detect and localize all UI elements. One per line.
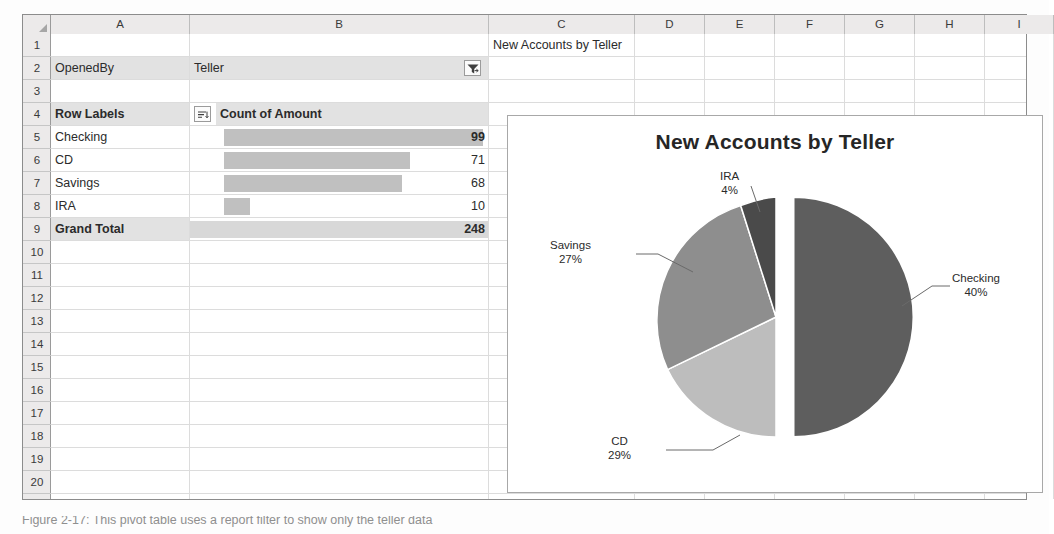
cell-A2-openedby[interactable]: OpenedBy [51,57,190,80]
leader-line-cd [666,435,740,450]
pivot-row-value[interactable]: 10 [190,195,489,218]
data-label-checking-pct: 40% [964,286,987,298]
sort-glyph [197,110,209,120]
row-header-17[interactable]: 17 [23,402,51,425]
data-label-ira-name: IRA [720,170,739,182]
row-header-7[interactable]: 7 [23,172,51,195]
figure-caption-text: Figure 2-17: This pivot table uses a rep… [22,516,922,527]
pivot-row-value[interactable]: 68 [190,172,489,195]
column-header-D[interactable]: D [635,15,705,34]
column-header-A[interactable]: A [51,15,190,34]
pivot-row-label[interactable]: Savings [51,172,190,195]
column-header-I[interactable]: I [985,15,1054,34]
pie-chart-object[interactable]: New Accounts by Teller IRA 4% [507,115,1043,493]
grand-total-label[interactable]: Grand Total [51,218,190,241]
row-header-18[interactable]: 18 [23,425,51,448]
row-header-14[interactable]: 14 [23,333,51,356]
sort-filter-icon[interactable] [194,106,211,122]
figure-caption: Figure 2-17: This pivot table uses a rep… [22,516,922,534]
row-header-10[interactable]: 10 [23,241,51,264]
gridline-horizontal [51,79,1026,80]
column-header-C[interactable]: C [489,15,635,34]
row-header-12[interactable]: 12 [23,287,51,310]
data-label-savings-name: Savings [550,239,591,251]
pivot-row-label[interactable]: CD [51,149,190,172]
pivot-row-value[interactable]: 71 [190,149,489,172]
row-header-13[interactable]: 13 [23,310,51,333]
grand-total-value[interactable]: 248 [190,218,489,241]
row-header-15[interactable]: 15 [23,356,51,379]
pivot-row-label[interactable]: IRA [51,195,190,218]
row-header-16[interactable]: 16 [23,379,51,402]
row-header-1[interactable]: 1 [23,34,51,57]
pie-chart-svg [508,116,1044,494]
data-label-cd-name: CD [611,435,628,447]
cell-C1[interactable]: New Accounts by Teller [489,34,1054,57]
column-header-G[interactable]: G [845,15,915,34]
data-label-cd: CD 29% [608,434,631,462]
row-header-19[interactable]: 19 [23,448,51,471]
column-header-H[interactable]: H [915,15,985,34]
filter-funnel-icon[interactable] [464,60,481,76]
data-label-savings-pct: 27% [559,253,582,265]
row-header-2[interactable]: 2 [23,57,51,80]
gridline-horizontal [51,56,1026,57]
data-label-ira: IRA 4% [720,169,739,197]
cell-A4-row-labels[interactable]: Row Labels [51,103,190,126]
row-header-8[interactable]: 8 [23,195,51,218]
row-header-11[interactable]: 11 [23,264,51,287]
gridline-vertical [488,34,489,499]
column-header-row: ABCDEFGHI [23,15,1026,34]
row-header-6[interactable]: 6 [23,149,51,172]
gridline-horizontal [51,102,1026,103]
row-header-column: 1234567891011121314151617181920 [23,34,51,499]
gridline-vertical [189,34,190,499]
cell-B4-count-of-amount[interactable]: Count of Amount [216,103,489,126]
column-header-F[interactable]: F [775,15,845,34]
pivot-row-label[interactable]: Checking [51,126,190,149]
row-header-4[interactable]: 4 [23,103,51,126]
row-header-20[interactable]: 20 [23,471,51,494]
row-header-9[interactable]: 9 [23,218,51,241]
data-label-checking-name: Checking [952,272,1000,284]
column-header-B[interactable]: B [190,15,489,34]
data-label-cd-pct: 29% [608,449,631,461]
data-label-savings: Savings 27% [550,238,591,266]
pie-slice-checking[interactable] [794,197,914,437]
select-all-corner[interactable] [23,15,51,34]
data-label-checking: Checking 40% [952,271,1000,299]
pivot-row-value[interactable]: 99 [190,126,489,149]
row-header-5[interactable]: 5 [23,126,51,149]
data-label-ira-pct: 4% [721,184,738,196]
spreadsheet: ABCDEFGHI 123456789101112131415161718192… [22,14,1027,500]
row-header-3[interactable]: 3 [23,80,51,103]
column-header-E[interactable]: E [705,15,775,34]
funnel-glyph [467,64,479,74]
cell-B2-teller[interactable]: Teller [190,57,489,80]
